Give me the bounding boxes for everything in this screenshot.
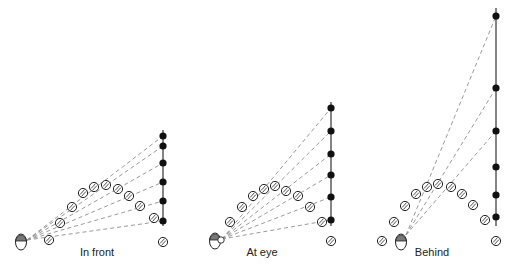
sight-line [406, 88, 496, 235]
ball-icon [389, 217, 398, 226]
ball-icon [44, 235, 53, 244]
projected-point-dot [159, 132, 166, 139]
ball-icon [305, 202, 314, 211]
ball-icon [446, 182, 455, 191]
projected-point-dot [159, 217, 166, 224]
projected-point-dot [492, 84, 499, 91]
ball-icon [124, 191, 133, 200]
projected-point-dot [159, 142, 166, 149]
ball-icon [149, 213, 158, 222]
projected-point-dot [327, 171, 334, 178]
ball-icon [259, 184, 268, 193]
panel-label-at-eye: At eye [246, 246, 277, 258]
ball-icon [293, 191, 302, 200]
ball-icon [67, 202, 76, 211]
ball-icon [270, 181, 279, 190]
ball-icon [377, 236, 386, 245]
projected-point-dot [492, 127, 499, 134]
observer-head-icon [16, 234, 27, 250]
ball-icon [411, 189, 420, 198]
projected-point-dot [327, 216, 334, 223]
ball-icon [113, 184, 122, 193]
ball-icon [433, 179, 442, 188]
projected-point-dot [159, 159, 166, 166]
ball-icon [326, 236, 335, 245]
sight-line [406, 16, 496, 235]
ball-icon [78, 188, 87, 197]
observer-head-icon [210, 233, 225, 249]
projected-point-dot [492, 191, 499, 198]
figure-stage: In front At eye Behind [0, 0, 527, 265]
projected-point-dot [327, 127, 334, 134]
ball-icon [55, 218, 64, 227]
ball-icon [491, 236, 500, 245]
ball-icon [89, 182, 98, 191]
ball-icon [158, 237, 167, 246]
projected-point-dot [327, 193, 334, 200]
panel-label-in-front: In front [80, 246, 114, 258]
projected-point-dot [327, 104, 334, 111]
ball-icon [480, 215, 489, 224]
ball-icon [225, 217, 234, 226]
sight-line [222, 108, 331, 239]
sight-line [222, 197, 331, 239]
ball-icon [237, 202, 246, 211]
sight-line [222, 154, 331, 239]
projected-point-dot [159, 178, 166, 185]
ball-icon [400, 201, 409, 210]
ball-icon [281, 186, 290, 195]
projected-point-dot [492, 213, 499, 220]
projected-point-dot [492, 163, 499, 170]
observer-head-icon [396, 234, 407, 250]
projected-point-dot [492, 12, 499, 19]
sight-line [27, 163, 163, 240]
projected-point-dot [327, 150, 334, 157]
ball-icon [101, 180, 110, 189]
ball-icon [422, 182, 431, 191]
ball-icon [457, 189, 466, 198]
projected-point-dot [159, 197, 166, 204]
trajectory-diagram [0, 0, 527, 265]
ball-icon [135, 201, 144, 210]
ball-icon [317, 217, 326, 226]
panel-label-behind: Behind [415, 246, 449, 258]
sight-line [27, 146, 163, 240]
ball-icon [248, 191, 257, 200]
ball-icon [468, 200, 477, 209]
